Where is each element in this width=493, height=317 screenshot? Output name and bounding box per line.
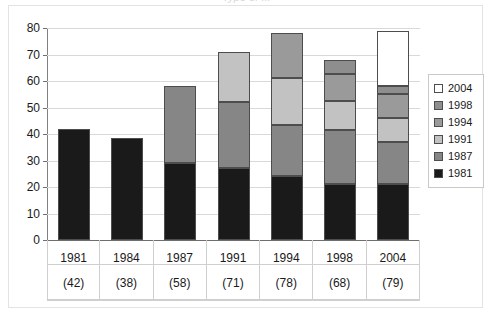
x-axis-label-1998: 1998: [313, 251, 365, 265]
x-axis-label-1991: 1991: [207, 251, 259, 265]
x-axis-label-1994: 1994: [260, 251, 312, 265]
x-axis-cell-1987: 1987(58): [154, 240, 207, 300]
x-axis-cell-2004: 2004(79): [367, 240, 420, 300]
chart-root: Type of ... 80706050403020100 2004199819…: [0, 0, 493, 317]
x-axis-cell-1998: 1998(68): [313, 240, 366, 300]
x-axis-sublabel-1981: (42): [48, 276, 99, 290]
bar-segment-1998-1998[interactable]: [324, 60, 356, 75]
chart-legend: 200419981994199119871981: [428, 74, 484, 188]
plot-wrapper: 80706050403020100 2004199819941991198719…: [0, 0, 493, 317]
legend-label-1981: 1981: [448, 168, 472, 179]
x-axis-sublabel-1991: (71): [207, 276, 259, 290]
legend-item-1981[interactable]: 1981: [434, 165, 479, 182]
legend-swatch-icon-1994: [434, 118, 443, 127]
y-tick-mark-50: [43, 108, 47, 109]
legend-label-1991: 1991: [448, 134, 472, 145]
bar-segment-1998-1991[interactable]: [324, 101, 356, 130]
x-axis-table-bottom: [47, 300, 420, 301]
x-axis-cell-1991: 1991(71): [207, 240, 260, 300]
bar-1994[interactable]: [271, 28, 303, 240]
bar-segment-2004-1998[interactable]: [377, 86, 409, 94]
x-axis-sublabel-1994: (78): [260, 276, 312, 290]
legend-item-2004[interactable]: 2004: [434, 80, 479, 97]
legend-swatch-icon-1981: [434, 169, 443, 178]
bar-2004[interactable]: [377, 28, 409, 240]
y-tick-label-70: 70: [8, 49, 40, 61]
y-tick-mark-80: [43, 28, 47, 29]
x-axis-sublabel-2004: (79): [367, 276, 419, 290]
bar-segment-2004-2004[interactable]: [377, 31, 409, 87]
bar-1987[interactable]: [164, 28, 196, 240]
legend-label-1998: 1998: [448, 100, 472, 111]
bar-segment-2004-1994[interactable]: [377, 94, 409, 118]
bar-segment-1998-1987[interactable]: [324, 130, 356, 184]
x-axis-cell-1981: 1981(42): [47, 240, 100, 300]
x-axis-cell-1984: 1984(38): [100, 240, 153, 300]
bar-1991[interactable]: [218, 28, 250, 240]
bar-segment-1994-1994[interactable]: [271, 33, 303, 78]
y-tick-label-80: 80: [8, 22, 40, 34]
bar-segment-2004-1981[interactable]: [377, 184, 409, 240]
legend-item-1998[interactable]: 1998: [434, 97, 479, 114]
x-axis-label-1984: 1984: [100, 251, 152, 265]
bar-segment-1998-1981[interactable]: [324, 184, 356, 240]
x-axis-sublabel-1987: (58): [154, 276, 206, 290]
legend-swatch-icon-2004: [434, 84, 443, 93]
x-axis-label-1981: 1981: [48, 251, 99, 265]
bar-1998[interactable]: [324, 28, 356, 240]
bar-segment-1991-1987[interactable]: [218, 102, 250, 168]
y-tick-mark-70: [43, 55, 47, 56]
y-tick-mark-60: [43, 81, 47, 82]
bar-segment-1994-1987[interactable]: [271, 125, 303, 177]
x-axis-sublabel-1984: (38): [100, 276, 152, 290]
legend-label-1994: 1994: [448, 117, 472, 128]
legend-label-1987: 1987: [448, 151, 472, 162]
legend-item-1994[interactable]: 1994: [434, 114, 479, 131]
legend-swatch-icon-1991: [434, 135, 443, 144]
x-axis-label-2004: 2004: [367, 251, 419, 265]
y-tick-label-20: 20: [8, 181, 40, 193]
bar-segment-1994-1981[interactable]: [271, 176, 303, 240]
bar-segment-1981-1981[interactable]: [58, 129, 90, 240]
legend-item-1991[interactable]: 1991: [434, 131, 479, 148]
y-tick-label-60: 60: [8, 75, 40, 87]
legend-label-2004: 2004: [448, 83, 472, 94]
bar-segment-2004-1991[interactable]: [377, 118, 409, 142]
y-tick-label-0: 0: [8, 234, 40, 246]
x-axis-label-1987: 1987: [154, 251, 206, 265]
legend-swatch-icon-1987: [434, 152, 443, 161]
bar-segment-1991-1991[interactable]: [218, 52, 250, 102]
y-tick-mark-30: [43, 161, 47, 162]
y-tick-mark-20: [43, 187, 47, 188]
y-tick-mark-40: [43, 134, 47, 135]
y-tick-label-10: 10: [8, 208, 40, 220]
x-axis-table-divider: [47, 264, 420, 265]
x-axis-label-table: 1981(42)1984(38)1987(58)1991(71)1994(78)…: [47, 240, 420, 300]
legend-swatch-icon-1998: [434, 101, 443, 110]
bar-1981[interactable]: [58, 28, 90, 240]
bar-segment-1994-1991[interactable]: [271, 78, 303, 124]
bar-segment-1987-1981[interactable]: [164, 163, 196, 240]
bar-segment-1987-1987[interactable]: [164, 86, 196, 163]
bar-segment-1984-1981[interactable]: [111, 138, 143, 240]
bar-segment-1991-1981[interactable]: [218, 168, 250, 240]
y-tick-label-50: 50: [8, 102, 40, 114]
y-tick-label-30: 30: [8, 155, 40, 167]
bar-segment-2004-1987[interactable]: [377, 142, 409, 184]
y-tick-label-40: 40: [8, 128, 40, 140]
bar-1984[interactable]: [111, 28, 143, 240]
y-tick-mark-10: [43, 214, 47, 215]
x-axis-cell-1994: 1994(78): [260, 240, 313, 300]
x-axis-sublabel-1998: (68): [313, 276, 365, 290]
legend-item-1987[interactable]: 1987: [434, 148, 479, 165]
bar-segment-1998-1994[interactable]: [324, 74, 356, 101]
